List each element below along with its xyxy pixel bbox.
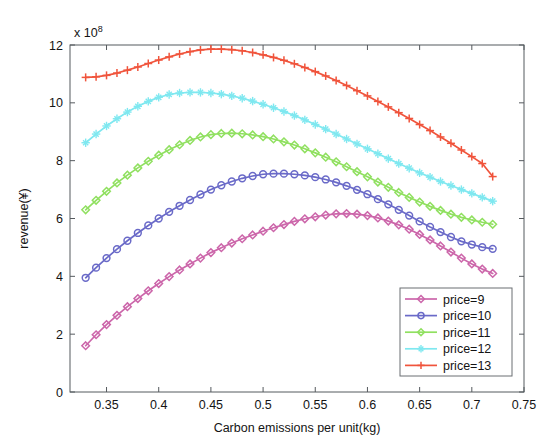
legend-label: price=13 — [443, 359, 491, 373]
chart-legend: price=9price=10price=11price=12price=13 — [400, 288, 512, 376]
x-tick-label: 0.35 — [94, 398, 118, 412]
legend-label: price=10 — [443, 309, 491, 323]
y-tick-label: 2 — [56, 328, 63, 342]
x-tick-label: 0.7 — [463, 398, 480, 412]
y-tick-label: 6 — [56, 212, 63, 226]
x-tick-label: 0.45 — [199, 398, 223, 412]
y-tick-label: 4 — [56, 270, 63, 284]
y-tick-label: 10 — [49, 96, 63, 110]
y-tick-label: 12 — [49, 39, 63, 53]
y-axis-label: revenue(¥) — [17, 188, 31, 248]
y-tick-label: 0 — [56, 386, 63, 400]
x-tick-label: 0.6 — [359, 398, 376, 412]
legend-label: price=12 — [443, 342, 491, 356]
chart-figure: 0.350.40.450.50.550.60.650.70.7502468101… — [0, 0, 558, 447]
x-tick-label: 0.4 — [150, 398, 167, 412]
revenue-vs-carbon-emissions-chart: 0.350.40.450.50.550.60.650.70.7502468101… — [0, 0, 558, 447]
x-tick-label: 0.55 — [303, 398, 327, 412]
y-axis-multiplier: x 108 — [74, 24, 103, 40]
x-tick-label: 0.75 — [512, 398, 536, 412]
x-tick-label: 0.5 — [254, 398, 271, 412]
legend-label: price=9 — [443, 293, 484, 307]
x-axis-label: Carbon emissions per unit(kg) — [214, 421, 381, 435]
legend-label: price=11 — [443, 326, 490, 340]
y-tick-label: 8 — [56, 154, 63, 168]
x-tick-label: 0.65 — [407, 398, 431, 412]
